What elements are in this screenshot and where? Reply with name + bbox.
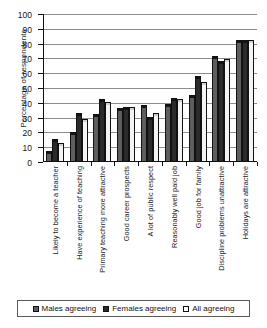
plot-area: 0102030405060708090100 <box>43 14 257 162</box>
legend-item-females: Females agreeing <box>103 304 176 313</box>
y-axis-tick-label: 0 <box>27 158 32 168</box>
legend-swatch-all <box>183 306 189 312</box>
legend-label: Males agreeing <box>42 304 97 313</box>
x-axis-label-slot: Reasonably well paid job <box>162 166 186 284</box>
x-axis-label-slot: Good career prospects <box>114 166 138 284</box>
y-axis-tick-label: 100 <box>18 10 32 20</box>
x-axis-tick <box>257 162 258 166</box>
x-axis-label-slot: Primary teaching more attractive <box>91 166 115 284</box>
x-axis-labels: Likely to become a teacherHave experienc… <box>43 166 257 284</box>
x-axis-label: A lot of public respect <box>146 166 155 237</box>
x-axis-label-slot: Likely to become a teacher <box>43 166 67 284</box>
y-axis-tick: 0 <box>38 162 43 163</box>
y-axis-tick-label: 80 <box>23 40 32 50</box>
y-axis-tick-label: 90 <box>23 25 32 35</box>
x-axis-label-slot: Have experience of teaching <box>67 166 91 284</box>
legend-item-all: All agreeing <box>183 304 234 313</box>
legend-label: All agreeing <box>192 304 234 313</box>
x-axis-label: Likely to become a teacher <box>50 166 59 255</box>
x-axis-label: Holidays are attractive <box>241 166 250 239</box>
y-axis-tick-label: 70 <box>23 54 32 64</box>
x-axis-label: Have experience of teaching <box>74 166 83 260</box>
legend-label: Females agreeing <box>112 304 176 313</box>
legend-swatch-females <box>103 306 109 312</box>
axis-lines <box>43 14 257 162</box>
x-axis-label: Good job for family <box>193 166 202 228</box>
bar-chart: Percentage of respondents 01020304050607… <box>0 0 267 328</box>
x-axis-label: Primary teaching more attractive <box>98 166 107 273</box>
x-axis-label-slot: Good job for family <box>186 166 210 284</box>
y-axis-tick-label: 20 <box>23 128 32 138</box>
x-axis-label-slot: Holidays are attractive <box>233 166 257 284</box>
x-axis-label-slot: Discipline problems unattractive <box>209 166 233 284</box>
y-axis-tick-label: 60 <box>23 69 32 79</box>
y-axis-tick-label: 40 <box>23 99 32 109</box>
y-axis-tick-label: 50 <box>23 84 32 94</box>
y-axis-tick-label: 10 <box>23 143 32 153</box>
x-axis-label: Reasonably well paid job <box>169 166 178 248</box>
x-axis-label: Discipline problems unattractive <box>217 166 226 271</box>
legend-item-males: Males agreeing <box>33 304 97 313</box>
chart-legend: Males agreeingFemales agreeingAll agreei… <box>17 300 250 317</box>
x-axis-label-slot: A lot of public respect <box>138 166 162 284</box>
legend-swatch-males <box>33 306 39 312</box>
y-axis-tick-label: 30 <box>23 114 32 124</box>
x-axis-label: Good career prospects <box>122 166 131 241</box>
